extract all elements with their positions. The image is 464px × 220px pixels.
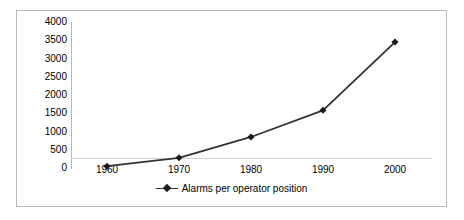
y-axis-tick-label: 3000 [17,54,67,64]
y-axis-tick-labels: 05001000150020002500300035004000 [17,22,67,169]
y-axis-tick-label: 0 [17,163,67,173]
y-axis-tick-label: 2000 [17,90,67,100]
y-axis-tick-label: 4000 [17,17,67,27]
plot-area [71,22,431,168]
y-axis-tick-label: 3500 [17,35,67,45]
legend-line-marker-icon [156,184,178,194]
legend-item-label: Alarms per operator position [182,183,308,194]
y-axis-tick-label: 1000 [17,127,67,137]
y-axis-tick-label: 2500 [17,72,67,82]
series-line [107,42,395,166]
chart-frame: 05001000150020002500300035004000 1960197… [16,10,447,207]
legend-item-alarms-per-operator-position[interactable]: Alarms per operator position [156,183,308,194]
y-axis-tick-label: 500 [17,145,67,155]
y-axis-tick-label: 1500 [17,108,67,118]
data-point-marker[interactable] [247,133,254,140]
data-point-marker[interactable] [175,154,182,161]
series-line-alarms-per-operator-position [71,22,431,168]
chart-legend: Alarms per operator position [17,183,446,194]
